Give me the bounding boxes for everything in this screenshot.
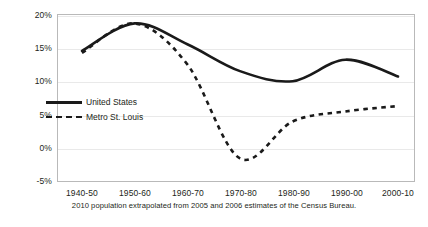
y-tick-label: -5% (8, 177, 52, 186)
y-tick-label: 10% (8, 77, 52, 86)
legend: United States Metro St. Louis (46, 95, 166, 125)
x-tick-label: 1980-90 (278, 188, 310, 198)
series-metro-st-louis (82, 23, 398, 160)
legend-item-label: United States (86, 95, 137, 109)
legend-item-metro-st-louis: Metro St. Louis (46, 110, 166, 125)
x-tick-label: 1990-00 (331, 188, 363, 198)
population-growth-line-chart: 20% 15% 10% 5% 0% -5% 1940-50 1950-60 19… (0, 0, 428, 227)
chart-footnote: 2010 population extrapolated from 2005 a… (0, 201, 428, 210)
legend-item-united-states: United States (46, 95, 166, 110)
x-tick-label: 1940-50 (66, 188, 98, 198)
series-united-states (82, 23, 398, 81)
y-axis: 20% 15% 10% 5% 0% -5% (0, 0, 52, 227)
y-tick-label: 20% (8, 11, 52, 20)
x-tick-label: 1970-80 (225, 188, 257, 198)
legend-line-solid-icon (46, 101, 82, 104)
legend-line-dashed-icon (46, 116, 82, 118)
x-tick-label: 1950-60 (119, 188, 151, 198)
y-tick-label: 15% (8, 44, 52, 53)
legend-item-label: Metro St. Louis (86, 110, 143, 124)
x-tick-label: 2000-10 (382, 188, 414, 198)
x-tick-label: 1960-70 (172, 188, 204, 198)
y-tick-label: 0% (8, 144, 52, 153)
